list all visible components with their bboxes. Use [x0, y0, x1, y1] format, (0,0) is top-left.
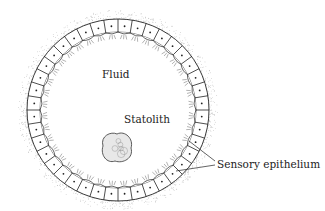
statolith — [102, 133, 131, 162]
nucleus — [111, 25, 113, 27]
nucleus — [124, 25, 126, 27]
nucleus — [172, 45, 174, 47]
nucleus — [97, 191, 99, 193]
nucleus — [181, 164, 183, 166]
nucleus — [201, 116, 203, 118]
nucleus — [53, 164, 55, 166]
nucleus — [53, 55, 55, 57]
nucleus — [97, 27, 99, 29]
nucleus — [63, 173, 65, 175]
nucleus — [161, 37, 163, 39]
nucleus — [85, 31, 87, 33]
nucleus — [33, 103, 35, 105]
label-fluid: Fluid — [102, 68, 130, 80]
nucleus — [124, 193, 126, 195]
nucleus — [45, 65, 47, 67]
nucleus — [45, 153, 47, 155]
nucleus — [39, 77, 41, 79]
label-sensory-epithelium: Sensory epithelium — [217, 158, 320, 170]
nucleus — [137, 191, 139, 193]
nucleus — [137, 27, 139, 29]
nucleus — [149, 31, 151, 33]
nucleus — [85, 187, 87, 189]
nucleus — [35, 89, 37, 91]
nucleus — [73, 37, 75, 39]
label-statolith: Statolith — [124, 113, 170, 125]
nucleus — [149, 187, 151, 189]
nucleus — [189, 153, 191, 155]
nucleus — [199, 129, 201, 131]
nucleus — [195, 141, 197, 143]
statocyst-diagram — [0, 0, 325, 211]
nucleus — [201, 103, 203, 105]
nucleus — [172, 173, 174, 175]
nucleus — [33, 116, 35, 118]
nucleus — [35, 129, 37, 131]
nucleus — [189, 65, 191, 67]
nucleus — [181, 55, 183, 57]
nucleus — [63, 45, 65, 47]
nucleus — [111, 193, 113, 195]
nucleus — [195, 77, 197, 79]
nucleus — [199, 89, 201, 91]
nucleus — [73, 181, 75, 183]
nucleus — [39, 141, 41, 143]
nucleus — [161, 181, 163, 183]
